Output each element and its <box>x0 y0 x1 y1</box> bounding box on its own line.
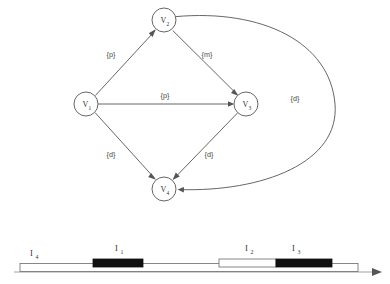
timeline-area: I 4 I 2 I 1 I 3 <box>0 230 390 284</box>
node-v2-subscript: 2 <box>167 21 170 27</box>
interval-i1[interactable]: I 1 <box>93 243 143 267</box>
edge-v2-v4-arrowhead <box>178 187 184 192</box>
interval-i1-subscript: 1 <box>121 249 124 255</box>
graph-area: {p} {m} {p} {d} <box>0 0 390 230</box>
interval-i2[interactable]: I 2 <box>219 243 276 267</box>
node-v3[interactable]: V 3 <box>234 92 258 116</box>
interval-i2-subscript: 2 <box>251 249 254 255</box>
edge-v3-v4: {d} <box>173 113 238 180</box>
interval-i2-label: I <box>245 243 248 253</box>
graph-svg: {p} {m} {p} {d} <box>0 0 390 230</box>
node-v3-subscript: 3 <box>249 105 252 111</box>
edge-v1-v2: {p} <box>95 29 155 95</box>
edge-label-v1-v2: {p} <box>107 50 116 59</box>
interval-i4-subscript: 4 <box>36 254 39 260</box>
node-v2[interactable]: V 2 <box>152 8 176 32</box>
interval-i2-bar[interactable] <box>219 259 276 267</box>
edge-v1-v3-arrowhead <box>228 101 234 106</box>
edge-v1-v3: {p} <box>98 91 234 107</box>
edge-v1-v4-line <box>95 113 155 179</box>
node-v1-subscript: 1 <box>89 105 92 111</box>
interval-i4-label: I <box>30 248 33 258</box>
node-v1[interactable]: V 1 <box>74 92 98 116</box>
edge-v2-v3-line <box>173 31 237 95</box>
edge-v2-v3: {m} <box>173 31 239 96</box>
edge-v2-v3-arrowhead <box>231 89 239 96</box>
timeline-axis-arrowhead <box>372 268 382 276</box>
figure-container: {p} {m} {p} {d} <box>0 0 390 284</box>
node-v4-subscript: 4 <box>167 190 170 196</box>
interval-i3[interactable]: I 3 <box>276 243 332 267</box>
interval-i3-label: I <box>292 243 295 253</box>
interval-i3-bar[interactable] <box>276 259 332 267</box>
edge-label-v3-v4: {d} <box>205 150 214 159</box>
interval-i1-bar[interactable] <box>93 259 143 267</box>
edge-v1-v2-arrowhead <box>149 29 156 37</box>
edge-label-v2-v4: {d} <box>291 94 300 103</box>
interval-i1-label: I <box>115 243 118 253</box>
node-v4[interactable]: V 4 <box>152 177 176 201</box>
timeline-svg: I 4 I 2 I 1 I 3 <box>0 230 390 284</box>
edge-v1-v4-arrowhead <box>148 173 156 180</box>
edge-label-v1-v3: {p} <box>161 91 170 100</box>
edge-label-v2-v3: {m} <box>202 50 213 59</box>
edge-v1-v2-line <box>95 31 155 96</box>
edge-label-v1-v4: {d} <box>107 150 116 159</box>
interval-i3-subscript: 3 <box>298 249 301 255</box>
edge-v1-v4: {d} <box>95 113 156 180</box>
edge-v3-v4-line <box>174 113 237 179</box>
